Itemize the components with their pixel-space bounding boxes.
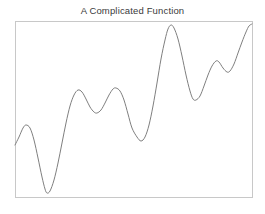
- plot-area: [0, 0, 265, 214]
- chart-figure: A Complicated Function: [0, 0, 265, 214]
- plot-frame: [16, 22, 253, 198]
- function-curve-line: [15, 24, 252, 193]
